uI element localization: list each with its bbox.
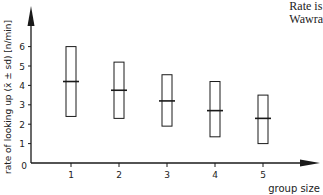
sd-range-box	[210, 82, 220, 137]
y-tick-label: 6	[19, 42, 25, 52]
y-tick-label: 4	[19, 81, 25, 91]
y-tick-label: 2	[19, 120, 25, 130]
caption-line-2: Wawra	[289, 13, 323, 26]
sd-range-box	[258, 95, 268, 144]
x-tick-label: 5	[260, 170, 266, 180]
box-group-1	[63, 47, 79, 117]
x-tick-label: 1	[68, 170, 74, 180]
y-axis-arrow-icon	[28, 6, 35, 26]
axes: 012345612345	[19, 6, 320, 180]
x-tick-label: 3	[164, 170, 170, 180]
box-group-4	[207, 82, 223, 137]
box-group-5	[255, 95, 271, 144]
chart: 012345612345 group size rate of looking …	[0, 0, 323, 195]
x-tick-label: 4	[212, 170, 218, 180]
y-tick-label: 5	[19, 62, 25, 72]
x-tick-label: 2	[116, 170, 122, 180]
boxes	[63, 47, 271, 144]
y-axis-label: rate of looking up (x̄ ± sd) [n/min]	[3, 20, 13, 174]
y-tick-label: 1	[19, 139, 25, 149]
y-tick-label: 0	[21, 161, 27, 171]
x-axis-label: group size	[268, 183, 320, 194]
x-axis-arrow-icon	[300, 160, 320, 167]
y-tick-label: 3	[19, 100, 25, 110]
box-group-2	[111, 62, 127, 118]
box-group-3	[159, 75, 175, 126]
caption-fragment: Rate is Wawra	[289, 0, 323, 26]
